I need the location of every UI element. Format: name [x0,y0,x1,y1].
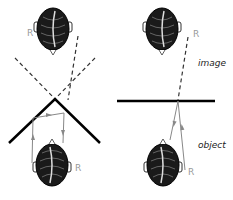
corner-mirror [9,99,100,143]
left-panel: R R [9,8,100,186]
right-panel: R image object R [117,8,226,186]
mirror-reflection-diagram: R R R image object R [0,0,233,200]
object-head-left [33,139,71,186]
virtual-mirror-left [15,58,55,99]
r-label-right-bottom: R [188,167,194,177]
r-label-right-top: R [193,29,199,39]
image-head-left [34,8,72,55]
r-label-left-bottom: R [75,163,81,173]
r-label-left-top: R [27,28,33,38]
image-head-right [143,8,181,55]
object-label: object [198,140,226,150]
object-head-right [144,139,182,186]
virtual-ray [68,36,78,100]
virtual-mirror-right [55,58,95,99]
virtual-ray-right [178,37,188,100]
image-label: image [198,58,226,68]
